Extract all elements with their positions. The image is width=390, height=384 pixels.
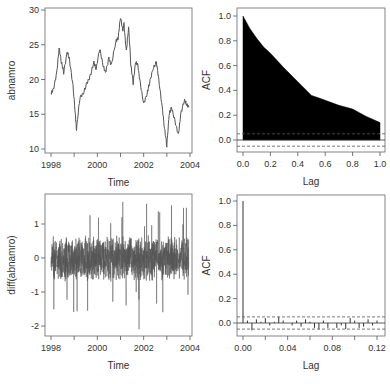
y-tick-label: 0.0 (218, 318, 231, 328)
x-tick-label: 2004 (180, 343, 200, 353)
y-tick-label: 10 (29, 144, 39, 154)
x-tick-label: 2002 (134, 160, 154, 170)
x-tick-label: 1998 (41, 343, 61, 353)
x-tick-label: 1998 (41, 160, 61, 170)
y-tick-label: 0.8 (218, 220, 231, 230)
x-tick-label: 0.8 (346, 159, 359, 169)
y-tick-label: -1 (31, 287, 39, 297)
x-tick-label: 2002 (134, 343, 154, 353)
y-tick-label: 0.4 (218, 269, 231, 279)
x-tick-label: 0.0 (237, 159, 250, 169)
acf-area (243, 16, 380, 140)
plot-frame (237, 195, 385, 336)
y-tick-label: 20 (29, 75, 39, 85)
x-axis-label: Lag (303, 176, 320, 187)
y-tick-label: 0.2 (218, 294, 231, 304)
y-tick-label: 0.6 (218, 245, 231, 255)
y-tick-label: 30 (29, 5, 39, 15)
x-tick-label: 2004 (180, 160, 200, 170)
x-axis-label: Time (108, 360, 130, 371)
y-tick-label: -2 (31, 321, 39, 331)
x-tick-label: 0.00 (234, 343, 252, 353)
y-tick-label: 25 (29, 40, 39, 50)
x-tick-label: 1.0 (374, 159, 387, 169)
x-tick-label: 2000 (87, 160, 107, 170)
y-axis-label: ACF (201, 70, 212, 90)
y-tick-label: 0.0 (218, 135, 231, 145)
chart-grid: 19982000200220041015202530Timeabnamro0.0… (0, 0, 390, 384)
x-tick-label: 0.2 (264, 159, 277, 169)
y-tick-label: 0 (34, 253, 39, 263)
y-tick-label: 0.4 (218, 85, 231, 95)
panel-acf-series: 0.00.20.40.60.81.00.00.20.40.60.81.0LagA… (201, 8, 386, 187)
y-tick-label: 0.2 (218, 110, 231, 120)
y-tick-label: 15 (29, 109, 39, 119)
y-tick-label: 1 (34, 219, 39, 229)
x-tick-label: 0.6 (319, 159, 332, 169)
y-tick-label: 0.6 (218, 61, 231, 71)
x-tick-label: 0.12 (368, 343, 386, 353)
series-line (51, 19, 189, 148)
y-tick-label: 1.0 (218, 11, 231, 21)
panel-diff-series: 1998200020022004-2-101Timediff(abnamro) (6, 194, 200, 371)
y-tick-label: 1.0 (218, 196, 231, 206)
y-axis-label: abnamro (6, 60, 17, 100)
x-tick-label: 0.4 (292, 159, 305, 169)
y-axis-label: diff(abnamro) (6, 235, 17, 294)
x-axis-label: Lag (303, 360, 320, 371)
x-tick-label: 0.04 (279, 343, 297, 353)
plot-frame (45, 8, 192, 153)
panel-series: 19982000200220041015202530Timeabnamro (6, 5, 200, 188)
y-axis-label: ACF (201, 256, 212, 276)
x-tick-label: 0.08 (324, 343, 342, 353)
panel-acf-diff: 0.000.040.080.120.00.20.40.60.81.0LagACF (201, 195, 386, 371)
x-axis-label: Time (108, 177, 130, 188)
y-tick-label: 0.8 (218, 36, 231, 46)
x-tick-label: 2000 (87, 343, 107, 353)
diff-series-line (51, 204, 189, 312)
